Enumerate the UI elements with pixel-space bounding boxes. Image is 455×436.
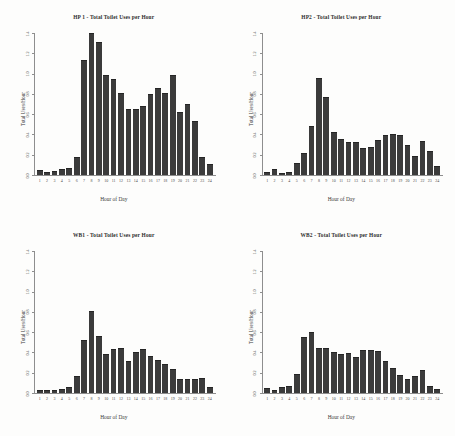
bar[interactable] xyxy=(301,337,307,393)
bar-column[interactable] xyxy=(191,252,198,393)
bar[interactable] xyxy=(390,368,396,393)
bar-column[interactable] xyxy=(293,252,300,393)
bar[interactable] xyxy=(427,151,433,175)
bar[interactable] xyxy=(272,390,278,393)
bar[interactable] xyxy=(309,126,315,175)
bar[interactable] xyxy=(420,141,426,175)
bar[interactable] xyxy=(140,349,146,393)
bar-column[interactable] xyxy=(426,34,433,175)
bar[interactable] xyxy=(118,348,124,393)
bar-column[interactable] xyxy=(382,252,389,393)
bar-column[interactable] xyxy=(43,252,50,393)
bar-column[interactable] xyxy=(88,252,95,393)
bar[interactable] xyxy=(331,352,337,393)
bar[interactable] xyxy=(111,349,117,393)
bar-column[interactable] xyxy=(360,34,367,175)
bar[interactable] xyxy=(207,164,213,175)
bar-column[interactable] xyxy=(117,34,124,175)
bar-column[interactable] xyxy=(162,34,169,175)
bar[interactable] xyxy=(434,389,440,393)
bar-column[interactable] xyxy=(315,34,322,175)
bar-column[interactable] xyxy=(278,34,285,175)
bar[interactable] xyxy=(59,169,65,175)
bar[interactable] xyxy=(427,386,433,393)
bar[interactable] xyxy=(368,350,374,393)
bar[interactable] xyxy=(383,361,389,393)
bar[interactable] xyxy=(126,361,132,393)
bar[interactable] xyxy=(279,387,285,393)
bar-column[interactable] xyxy=(199,34,206,175)
bar-column[interactable] xyxy=(80,34,87,175)
bar[interactable] xyxy=(74,157,80,175)
bar[interactable] xyxy=(37,390,43,393)
bar-column[interactable] xyxy=(110,252,117,393)
bar[interactable] xyxy=(405,145,411,175)
bar-column[interactable] xyxy=(80,252,87,393)
bar-column[interactable] xyxy=(66,34,73,175)
bar[interactable] xyxy=(360,350,366,393)
bar-column[interactable] xyxy=(286,34,293,175)
bar-column[interactable] xyxy=(73,252,80,393)
bar[interactable] xyxy=(44,172,50,175)
bar[interactable] xyxy=(177,112,183,175)
bar[interactable] xyxy=(264,388,270,393)
bar-column[interactable] xyxy=(147,252,154,393)
bar-column[interactable] xyxy=(169,252,176,393)
bar-column[interactable] xyxy=(330,34,337,175)
bar-column[interactable] xyxy=(337,252,344,393)
bar-column[interactable] xyxy=(345,34,352,175)
bar-column[interactable] xyxy=(206,34,213,175)
bar-column[interactable] xyxy=(73,34,80,175)
bar-column[interactable] xyxy=(308,34,315,175)
bar-column[interactable] xyxy=(51,34,58,175)
bar[interactable] xyxy=(118,93,124,175)
bar[interactable] xyxy=(294,163,300,175)
bar[interactable] xyxy=(37,170,43,175)
bar-column[interactable] xyxy=(184,34,191,175)
bar-column[interactable] xyxy=(323,252,330,393)
bar[interactable] xyxy=(89,311,95,393)
bar-column[interactable] xyxy=(154,34,161,175)
bar-column[interactable] xyxy=(411,34,418,175)
bar-column[interactable] xyxy=(103,34,110,175)
bar[interactable] xyxy=(66,387,72,393)
bar-column[interactable] xyxy=(330,252,337,393)
bar[interactable] xyxy=(52,390,58,393)
bar[interactable] xyxy=(207,387,213,393)
bar[interactable] xyxy=(412,156,418,175)
bar[interactable] xyxy=(405,379,411,393)
bar-column[interactable] xyxy=(308,252,315,393)
bar[interactable] xyxy=(162,93,168,175)
bar[interactable] xyxy=(96,42,102,175)
bar-column[interactable] xyxy=(352,34,359,175)
bar[interactable] xyxy=(140,106,146,175)
bar-column[interactable] xyxy=(404,252,411,393)
bar-column[interactable] xyxy=(88,34,95,175)
bar-column[interactable] xyxy=(315,252,322,393)
bar-column[interactable] xyxy=(300,252,307,393)
bar[interactable] xyxy=(346,353,352,393)
bar[interactable] xyxy=(390,134,396,175)
bar-column[interactable] xyxy=(95,34,102,175)
bar[interactable] xyxy=(286,172,292,175)
bar[interactable] xyxy=(126,109,132,175)
bar-column[interactable] xyxy=(404,34,411,175)
bar[interactable] xyxy=(309,332,315,393)
bar-column[interactable] xyxy=(139,34,146,175)
bar[interactable] xyxy=(434,166,440,175)
bar[interactable] xyxy=(52,171,58,175)
bar-column[interactable] xyxy=(176,34,183,175)
bar[interactable] xyxy=(360,148,366,175)
bar-column[interactable] xyxy=(397,252,404,393)
bar[interactable] xyxy=(316,78,322,175)
bar[interactable] xyxy=(316,348,322,393)
bar[interactable] xyxy=(155,360,161,393)
bar-column[interactable] xyxy=(264,34,271,175)
bar-column[interactable] xyxy=(162,252,169,393)
bar-column[interactable] xyxy=(154,252,161,393)
bar[interactable] xyxy=(155,88,161,175)
bar-column[interactable] xyxy=(345,252,352,393)
bar[interactable] xyxy=(89,33,95,175)
bar[interactable] xyxy=(338,139,344,175)
bar[interactable] xyxy=(286,386,292,393)
